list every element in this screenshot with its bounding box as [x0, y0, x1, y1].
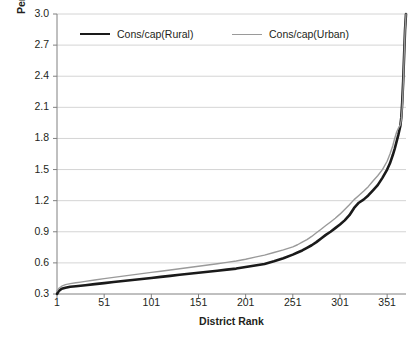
x-tick-label: 1 [37, 297, 77, 308]
y-tick-label: 2.1 [21, 101, 49, 112]
y-tick-label: 2.7 [21, 39, 49, 50]
x-tick-label: 251 [273, 297, 313, 308]
x-tick-label: 51 [84, 297, 124, 308]
legend-label-urban: Cons/cap(Urban) [269, 28, 349, 40]
plot-area [0, 0, 419, 338]
legend-swatch-rural-line-icon [80, 33, 110, 35]
legend-item-rural: Cons/cap(Rural) [80, 27, 193, 40]
y-tick-label: 0.9 [21, 226, 49, 237]
line-chart: Per capita Monthly Consumption (000 Rs) … [0, 0, 419, 338]
legend-label-rural: Cons/cap(Rural) [117, 28, 193, 40]
y-tick-label: 1.8 [21, 132, 49, 143]
y-tick-label: 2.4 [21, 70, 49, 81]
legend-swatch-urban-line-icon [232, 34, 262, 35]
y-tick-label: 1.2 [21, 195, 49, 206]
x-tick-label: 301 [320, 297, 360, 308]
y-tick-label: 3.0 [21, 8, 49, 19]
y-axis-ticks [53, 14, 57, 294]
x-tick-label: 151 [178, 297, 218, 308]
x-tick-label: 101 [131, 297, 171, 308]
y-tick-label: 1.5 [21, 164, 49, 175]
x-tick-label: 351 [367, 297, 407, 308]
series-line-urban [57, 14, 406, 291]
legend-item-urban: Cons/cap(Urban) [232, 27, 349, 40]
gridlines [57, 14, 406, 263]
series-line-rural [57, 14, 406, 294]
data-series-group [57, 14, 406, 294]
y-tick-label: 0.6 [21, 257, 49, 268]
x-axis-title: District Rank [57, 315, 406, 327]
x-tick-label: 201 [226, 297, 266, 308]
